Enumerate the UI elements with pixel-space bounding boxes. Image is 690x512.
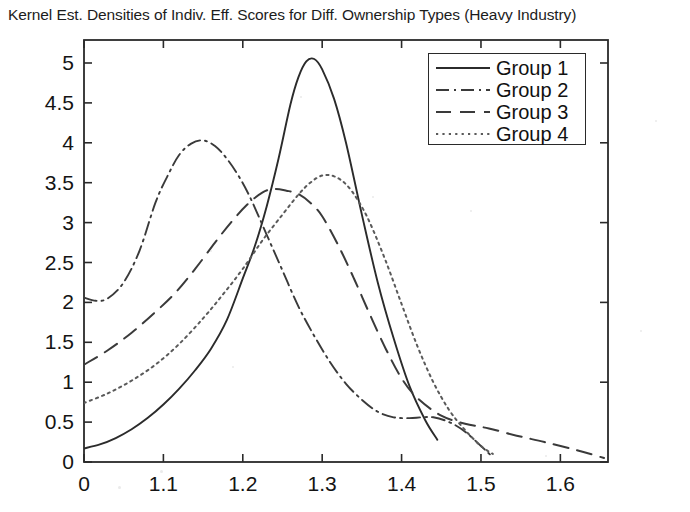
x-tick-label: 1.1 [149, 472, 178, 496]
legend-item-4[interactable]: Group 4 [429, 122, 585, 145]
y-tick-label: 1 [16, 370, 74, 394]
scan-speck [160, 470, 163, 473]
series-line-1 [84, 58, 437, 448]
y-tick-label: 2.5 [16, 251, 74, 275]
plot-canvas [0, 0, 690, 512]
y-tick-label: 0.5 [16, 410, 74, 434]
scan-speck [210, 250, 212, 252]
scan-speck [392, 487, 394, 489]
y-tick-label: 4.5 [16, 91, 74, 115]
y-tick-label: 2 [16, 290, 74, 314]
y-tick-label: 3.5 [16, 171, 74, 195]
y-tick-label: 0 [16, 450, 74, 474]
plot-area [0, 0, 690, 512]
legend-item-3[interactable]: Group 3 [429, 100, 585, 123]
x-tick-label: 1.4 [387, 472, 416, 496]
x-tick-label: 1.5 [466, 472, 495, 496]
legend-line-swatch [435, 127, 491, 141]
scan-speck [470, 210, 472, 212]
scan-speck [545, 455, 547, 457]
legend-line-swatch [435, 61, 491, 75]
chart-figure: Kernel Est. Densities of Indiv. Eff. Sco… [0, 0, 690, 512]
y-tick-label: 5 [16, 51, 74, 75]
scan-speck [232, 366, 234, 368]
scan-speck [560, 60, 562, 62]
legend-line-swatch [435, 105, 491, 119]
legend-label: Group 3 [496, 102, 568, 122]
chart-legend[interactable]: Group 1Group 2Group 3Group 4 [428, 53, 586, 145]
scan-speck [118, 486, 121, 489]
scan-speck [640, 330, 642, 332]
y-tick-label: 1.5 [16, 330, 74, 354]
scan-speck [300, 96, 302, 98]
x-tick-label: 1.6 [546, 472, 575, 496]
legend-line-swatch [435, 83, 491, 97]
series-line-4 [84, 175, 493, 454]
series-line-3 [84, 189, 604, 458]
series-line-2 [84, 140, 493, 457]
x-tick-label: 1.3 [308, 472, 337, 496]
legend-item-2[interactable]: Group 2 [429, 78, 585, 101]
y-tick-label: 4 [16, 131, 74, 155]
legend-label: Group 2 [496, 80, 568, 100]
scan-speck [655, 120, 657, 122]
x-tick-label: 0 [78, 472, 90, 496]
x-tick-label: 1.2 [228, 472, 257, 496]
legend-label: Group 1 [496, 58, 568, 78]
legend-label: Group 4 [496, 124, 568, 144]
scan-speck [372, 196, 374, 198]
y-tick-label: 3 [16, 211, 74, 235]
